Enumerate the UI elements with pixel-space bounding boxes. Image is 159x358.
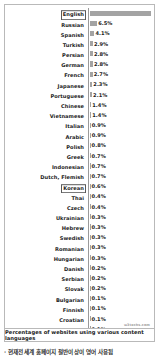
bar-category-label: Ukrainian [54, 214, 86, 223]
bar-category-label: Bulgarian [54, 296, 86, 305]
below-chart-note: · 현재전세계 홈페이지 절반이상이 영어 사용됨 [4, 348, 155, 356]
bar-cell: 2.8% [89, 49, 151, 59]
bar-value-label: 2.7% [93, 69, 108, 79]
bar-cell: 2.8% [89, 59, 151, 69]
bar-value-label: 0.7% [90, 171, 105, 181]
bar-value-label: 0.1% [90, 293, 105, 303]
bar-cell: 0.9% [89, 120, 151, 130]
bar-cell: 0.1% [89, 303, 151, 313]
bar-category-label: Japanese [56, 82, 86, 91]
bar-category-label: Greek [65, 153, 86, 162]
bar-value-label: 0.3% [90, 253, 105, 263]
bar-cell: 0.3% [89, 253, 151, 263]
bar-value-label: 0.9% [91, 130, 106, 140]
bar [90, 21, 98, 26]
bar-category-label: Slovak [63, 286, 86, 295]
bar-value-label: 2.8% [93, 49, 108, 59]
bar-cell: 0.1% [89, 293, 151, 303]
bar-value-label: 0.6% [90, 181, 105, 191]
bar-value-label: 0.1% [90, 304, 105, 314]
bar-cell: 53.6% [89, 8, 151, 18]
bar-cell: 0.7% [89, 171, 151, 181]
bar-cell: 2.1% [89, 90, 151, 100]
bar-cell: 0.7% [89, 151, 151, 161]
bar-category-label: Hebrew [60, 224, 86, 233]
bar-cell: 0.3% [89, 222, 151, 232]
bar-category-label: Italian [63, 123, 86, 132]
bar-value-label: 0.2% [90, 263, 105, 273]
bar-category-label: Hungarian [52, 255, 86, 264]
chart-frame: English53.6%Russian6.5%Spanish4.1%Turkis… [4, 4, 155, 342]
bar-category-label: Polish [64, 143, 86, 152]
bar-category-label: Indonesian [50, 163, 86, 172]
bar-rows-container: English53.6%Russian6.5%Spanish4.1%Turkis… [8, 8, 151, 342]
bar-cell: 0.3% [89, 242, 151, 252]
bar-category-label: Spanish [59, 31, 86, 40]
bar-value-label: 1.4% [91, 100, 106, 110]
bar-category-label: Dutch, Flemish [38, 174, 86, 183]
chart-watermark: w3techs.com [124, 323, 150, 327]
bar-cell: 0.2% [89, 263, 151, 273]
bar-category-label: Serbian [60, 275, 86, 284]
bar-value-label: 0.3% [90, 243, 105, 253]
bar-cell: 0.2% [89, 273, 151, 283]
bar-cell: 2.3% [89, 79, 151, 89]
bar-cell: 0.3% [89, 232, 151, 242]
bar-category-label: Danish [62, 265, 86, 274]
bar-category-label: Thai [70, 194, 86, 203]
bar-value-label: 0.4% [90, 192, 105, 202]
bar-value-label: 0.3% [90, 222, 105, 232]
bar-value-label: 4.1% [94, 29, 109, 39]
bar-value-label: 0.7% [90, 151, 105, 161]
bar-category-label: Romanian [53, 245, 86, 254]
bar-value-label: 0.3% [90, 212, 105, 222]
chart-caption: Percentages of websites using various co… [5, 328, 154, 341]
bar [90, 11, 152, 16]
bar-cell: 0.9% [89, 130, 151, 140]
bar-category-label: Swedish [58, 235, 86, 244]
bar-category-label: English [61, 11, 86, 20]
bar-value-label: 2.1% [92, 90, 107, 100]
bar-category-label: Persian [60, 51, 86, 60]
bar-value-label: 0.3% [90, 232, 105, 242]
bar-value-label: 1.4% [91, 110, 106, 120]
bar-value-label: 0.7% [90, 161, 105, 171]
bar-category-label: Portuguese [48, 92, 86, 101]
bar-cell: 0.2% [89, 283, 151, 293]
bar-cell: 0.3% [89, 212, 151, 222]
bar-category-label: Czech [65, 204, 86, 213]
bar-category-label: Chinese [59, 102, 86, 111]
bar-cell: 0.8% [89, 140, 151, 150]
bar-value-label: 0.1% [90, 314, 105, 324]
bar-cell: 0.4% [89, 191, 151, 201]
bar-category-label: Croatian [57, 316, 86, 325]
bar-value-label: 2.3% [92, 80, 107, 90]
bar-cell: 6.5% [89, 18, 151, 28]
bar-category-label: Vietnamese [48, 112, 86, 121]
bar-value-label: 0.4% [90, 202, 105, 212]
bar-value-label: 2.8% [93, 59, 108, 69]
bar-cell: 2.9% [89, 39, 151, 49]
bar-value-label: 0.9% [91, 120, 106, 130]
bar-cell: 0.6% [89, 181, 151, 191]
bar-category-label: Russian [59, 21, 86, 30]
bar-category-label: Finnish [61, 306, 86, 315]
bar-cell: 0.7% [89, 161, 151, 171]
bar-value-label: 2.9% [93, 39, 108, 49]
bar-value-label: 0.2% [90, 283, 105, 293]
bar-category-label: German [59, 61, 86, 70]
bar-cell: 4.1% [89, 28, 151, 38]
bar-value-label: 0.2% [90, 273, 105, 283]
bar-value-label: 0.8% [90, 141, 105, 151]
bar-category-label: Turkish [61, 41, 86, 50]
bar-category-label: Korean [61, 184, 86, 193]
language-share-chart-page: English53.6%Russian6.5%Spanish4.1%Turkis… [0, 0, 159, 358]
bar-cell: 2.7% [89, 69, 151, 79]
bar-cell: 1.4% [89, 110, 151, 120]
bar-value-label: 6.5% [97, 18, 112, 28]
bar-category-label: Arabic [63, 133, 86, 142]
bar-category-label: French [62, 72, 86, 81]
bar-cell: 1.4% [89, 100, 151, 110]
bar-cell: 0.4% [89, 202, 151, 212]
